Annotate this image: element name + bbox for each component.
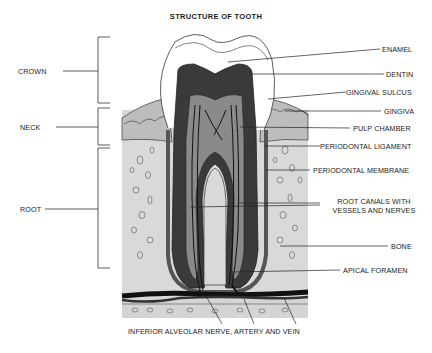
label-apical-foramen: APICAL FORAMEN <box>343 266 408 275</box>
label-root-canals-line2: VESSELS AND NERVES <box>322 206 426 215</box>
neck-bracket <box>98 108 110 145</box>
label-bone: BONE <box>391 242 412 251</box>
tooth-illustration <box>0 0 432 353</box>
crown-bracket <box>98 37 110 103</box>
label-root-canals: ROOT CANALS WITH VESSELS AND NERVES <box>322 197 426 215</box>
label-periodontal-membrane: PERIODONTAL MEMBRANE <box>313 166 409 175</box>
interradicular-bone <box>204 168 226 285</box>
label-gingiva: GINGIVA <box>384 107 414 116</box>
label-dentin: DENTIN <box>386 70 413 79</box>
region-brackets <box>45 37 110 268</box>
label-gingival-sulcus: GINGIVAL SULCUS <box>346 88 412 97</box>
label-periodontal-ligament: PERIODONTAL LIGAMENT <box>320 142 411 151</box>
label-inferior-alveolar: INFERIOR ALVEOLAR NERVE, ARTERY AND VEIN <box>128 327 300 336</box>
label-crown: CROWN <box>18 67 46 76</box>
label-root: ROOT <box>20 205 41 214</box>
label-pulp-chamber: PULP CHAMBER <box>353 124 411 133</box>
label-enamel: ENAMEL <box>382 45 412 54</box>
label-root-canals-line1: ROOT CANALS WITH <box>322 197 426 206</box>
label-neck: NECK <box>20 123 40 132</box>
root-bracket <box>98 148 110 268</box>
